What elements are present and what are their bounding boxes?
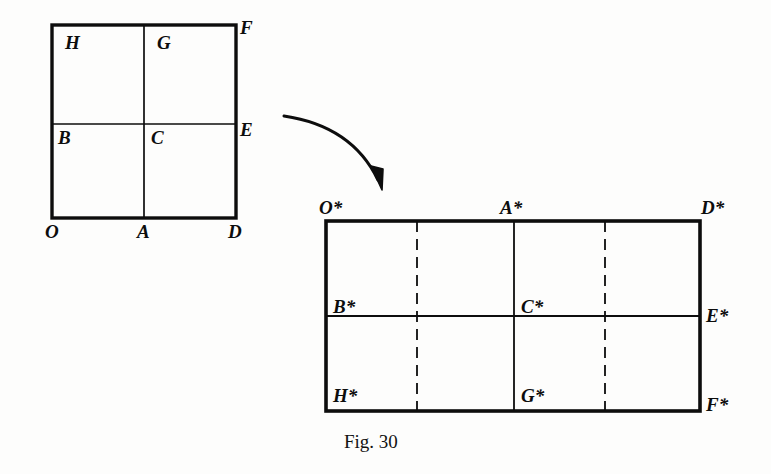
- label-C-star: C*: [521, 297, 543, 316]
- label-A: A: [137, 222, 150, 241]
- label-B: B: [58, 128, 71, 147]
- transformation-arrow-curve: [284, 116, 378, 180]
- label-A-star: A*: [500, 198, 522, 217]
- figure-caption: Fig. 30: [344, 432, 398, 451]
- label-H-star: H*: [333, 386, 357, 405]
- figure-30-diagram: H G F B C E O A D O* A* D* B* C* E* H* G…: [0, 0, 771, 474]
- label-C: C: [151, 128, 164, 147]
- label-G-star: G*: [521, 386, 544, 405]
- figure-vector-canvas: [0, 0, 771, 474]
- transformation-arrow-group: [284, 116, 383, 190]
- label-O: O: [45, 222, 59, 241]
- left-square-group: [52, 25, 236, 218]
- label-H: H: [65, 33, 80, 52]
- transformation-arrow-head: [371, 166, 383, 190]
- right-rectangle-group: [326, 221, 700, 411]
- label-D: D: [228, 222, 242, 241]
- label-D-star: D*: [701, 198, 724, 217]
- label-F: F: [240, 18, 253, 37]
- label-E-star: E*: [706, 306, 728, 325]
- label-G: G: [157, 33, 171, 52]
- label-F-star: F*: [706, 395, 728, 414]
- label-O-star: O*: [319, 198, 342, 217]
- label-E: E: [240, 120, 253, 139]
- label-B-star: B*: [333, 297, 355, 316]
